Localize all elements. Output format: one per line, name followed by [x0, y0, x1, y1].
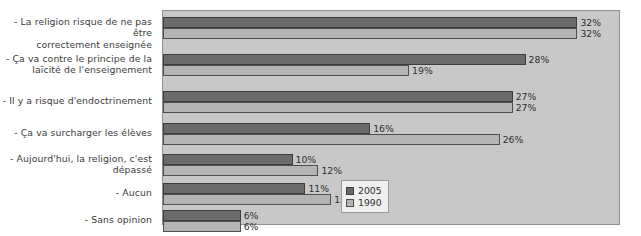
bar-2005-3: [163, 123, 370, 134]
category-label-line: correctement enseignée: [0, 39, 152, 51]
bar-2005-1: [163, 54, 526, 65]
bar-value-label: 27%: [516, 102, 537, 113]
bar-1990-5: [163, 194, 331, 205]
legend-item-1990: 1990: [346, 197, 382, 208]
bar-value-label: 32%: [580, 17, 601, 28]
bar-value-label: 6%: [244, 210, 259, 221]
bar-1990-0: [163, 28, 577, 39]
bar-value-label: 16%: [373, 123, 394, 134]
bar-2005-5: [163, 183, 305, 194]
category-label: - Sans opinion: [0, 214, 152, 226]
category-label-line: laïcité de l'enseignement: [0, 64, 152, 76]
bar-2005-6: [163, 210, 241, 221]
plot-inner: 32%32%28%19%27%27%16%26%10%12%11%13%6%6%: [163, 11, 619, 224]
bar-1990-6: [163, 221, 241, 232]
legend-swatch-1990-icon: [346, 199, 354, 207]
category-label-line: dépassé: [0, 164, 152, 176]
bar-1990-2: [163, 102, 513, 113]
plot-area: 32%32%28%19%27%27%16%26%10%12%11%13%6%6%: [162, 10, 620, 225]
legend-swatch-2005-icon: [346, 187, 354, 195]
category-label-line: - La religion risque de ne pas être: [0, 16, 152, 39]
category-label: - Ça va contre le principe de lalaïcité …: [0, 53, 152, 76]
bar-2005-0: [163, 17, 577, 28]
category-label: - La religion risque de ne pas êtrecorre…: [0, 16, 152, 51]
bar-value-label: 6%: [244, 221, 259, 232]
category-label-line: - Aujourd'hui, la religion, c'est: [0, 153, 152, 165]
category-label-line: - Aucun: [0, 187, 152, 199]
bar-value-label: 32%: [580, 28, 601, 39]
category-label-line: - Sans opinion: [0, 214, 152, 226]
legend-label-2005: 2005: [358, 186, 382, 196]
category-label-line: - Ça va surcharger les élèves: [0, 127, 152, 139]
bar-value-label: 26%: [503, 134, 524, 145]
bar-value-label: 27%: [516, 91, 537, 102]
bar-2005-4: [163, 154, 293, 165]
bar-1990-3: [163, 134, 500, 145]
bar-value-label: 28%: [529, 54, 550, 65]
bar-value-label: 19%: [412, 65, 433, 76]
bar-chart: - La religion risque de ne pas êtrecorre…: [0, 0, 641, 236]
bar-value-label: 10%: [296, 154, 317, 165]
category-axis-labels: - La religion risque de ne pas êtrecorre…: [0, 10, 158, 225]
category-label: - Il y a risque d'endoctrinement: [0, 95, 152, 107]
category-label: - Ça va surcharger les élèves: [0, 127, 152, 139]
bar-value-label: 12%: [321, 165, 342, 176]
bar-1990-4: [163, 165, 318, 176]
category-label-line: - Ça va contre le principe de la: [0, 53, 152, 65]
category-label-line: - Il y a risque d'endoctrinement: [0, 95, 152, 107]
legend-label-1990: 1990: [358, 198, 382, 208]
category-label: - Aucun: [0, 187, 152, 199]
category-label: - Aujourd'hui, la religion, c'estdépassé: [0, 153, 152, 176]
bar-2005-2: [163, 91, 513, 102]
bar-value-label: 11%: [308, 183, 329, 194]
legend-item-2005: 2005: [346, 185, 382, 196]
bar-1990-1: [163, 65, 409, 76]
chart-legend: 2005 1990: [341, 180, 389, 213]
